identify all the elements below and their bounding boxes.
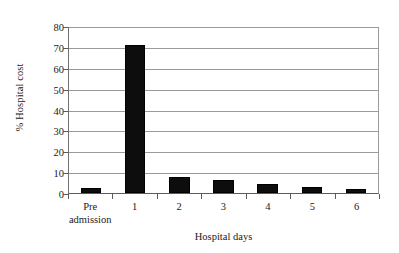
x-tick-label-line1: 5 (310, 201, 315, 212)
x-tick-label: 1 (112, 200, 156, 226)
bar-slot (157, 27, 201, 193)
bar[interactable] (213, 180, 233, 193)
x-axis-title: Hospital days (68, 231, 379, 242)
x-tick-label: 3 (201, 200, 245, 226)
bar[interactable] (346, 189, 366, 193)
x-tick-mark (379, 194, 380, 199)
bar-slot (201, 27, 245, 193)
bar-slot (334, 27, 378, 193)
y-tick-label: 10 (38, 168, 64, 179)
x-tick-label: 4 (246, 200, 290, 226)
bar[interactable] (169, 177, 189, 193)
y-axis-title: % Hospital cost (10, 0, 28, 195)
bar[interactable] (125, 45, 145, 193)
x-tick-mark (290, 194, 291, 199)
x-axis-labels: Preadmission123456 (68, 200, 379, 226)
x-tick-mark (201, 194, 202, 199)
x-tick-label-line1: 1 (132, 201, 137, 212)
x-tick-mark (246, 194, 247, 199)
bar[interactable] (81, 188, 101, 193)
x-tick-mark (112, 194, 113, 199)
x-tick-label: 6 (335, 200, 379, 226)
x-tick-mark (68, 194, 69, 199)
bar-chart: % Hospital cost 80706050403020100 Preadm… (0, 0, 399, 253)
bar-slot (113, 27, 157, 193)
y-axis-title-text: % Hospital cost (14, 64, 25, 132)
y-tick-label: 70 (38, 42, 64, 53)
bar-slot (69, 27, 113, 193)
x-tick-label-line1: 4 (265, 201, 270, 212)
y-tick-label: 40 (38, 105, 64, 116)
y-tick-label: 50 (38, 84, 64, 95)
x-tick-label-line1: Pre (83, 201, 97, 212)
bar-slot (246, 27, 290, 193)
bars-layer (69, 27, 378, 193)
x-tick-label-line2: admission (68, 213, 112, 226)
bar[interactable] (257, 184, 277, 193)
y-tick-label: 60 (38, 63, 64, 74)
x-tick-label: Preadmission (68, 200, 112, 226)
x-tick-mark (157, 194, 158, 199)
plot-area (68, 27, 379, 194)
y-tick-label: 0 (38, 189, 64, 200)
bar[interactable] (302, 187, 322, 193)
x-tick-label: 5 (290, 200, 334, 226)
y-tick-label: 30 (38, 126, 64, 137)
bar-slot (290, 27, 334, 193)
x-tick-label-line1: 6 (354, 201, 359, 212)
x-tick-label-line1: 3 (221, 201, 226, 212)
y-tick-label: 20 (38, 147, 64, 158)
x-tick-mark (335, 194, 336, 199)
x-tick-label: 2 (157, 200, 201, 226)
x-tick-label-line1: 2 (176, 201, 181, 212)
y-tick-label: 80 (38, 22, 64, 33)
